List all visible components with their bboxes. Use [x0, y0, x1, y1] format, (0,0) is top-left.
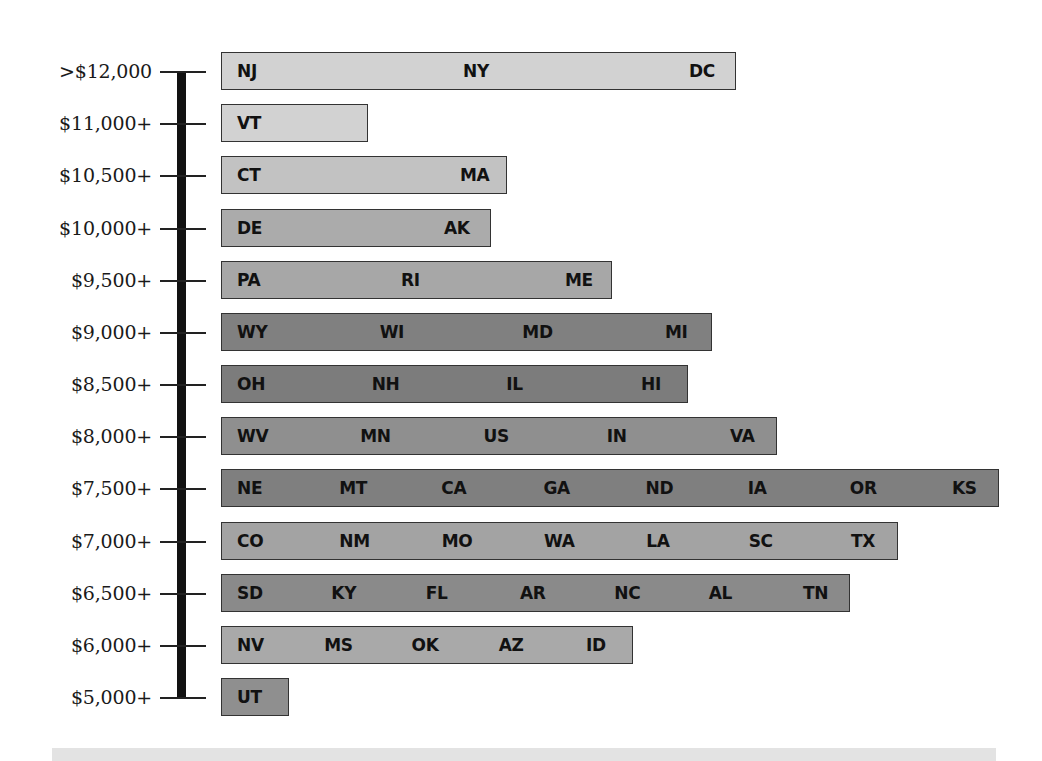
state-label: ND [646, 478, 674, 498]
state-label: PA [237, 270, 260, 290]
axis-tick [160, 541, 206, 543]
state-label: WV [237, 426, 268, 446]
state-label: FL [426, 583, 448, 603]
state-label: SC [749, 531, 773, 551]
axis-tick-label: $7,500+ [0, 477, 152, 499]
axis-tick [160, 280, 206, 282]
axis-tick [160, 175, 206, 177]
state-label: AK [444, 218, 470, 238]
axis-tick-label: $6,500+ [0, 582, 152, 604]
bracket-bar: NJNYDC [221, 52, 736, 90]
bracket-bar: SDKYFLARNCALTN [221, 574, 850, 612]
bracket-bar: DEAK [221, 209, 491, 247]
axis-tick-label: $9,000+ [0, 321, 152, 343]
state-label: MD [522, 322, 552, 342]
state-label: DC [689, 61, 715, 81]
axis-tick-label: $10,000+ [0, 217, 152, 239]
state-label: AZ [499, 635, 524, 655]
bracket-bar: WVMNUSINVA [221, 417, 777, 455]
state-label: UT [237, 687, 262, 707]
state-label: AR [520, 583, 546, 603]
state-label: NM [339, 531, 370, 551]
state-label: NE [237, 478, 262, 498]
axis-tick [160, 436, 206, 438]
state-label: DE [237, 218, 262, 238]
bracket-bar: UT [221, 678, 289, 716]
state-label: NJ [237, 61, 257, 81]
state-label: NC [614, 583, 640, 603]
state-label: MS [324, 635, 353, 655]
state-label: OK [412, 635, 439, 655]
state-label: CA [441, 478, 466, 498]
state-label: WY [237, 322, 267, 342]
axis-tick [160, 332, 206, 334]
axis-tick [160, 228, 206, 230]
state-label: IL [506, 374, 523, 394]
state-label: NH [372, 374, 400, 394]
state-label: NY [463, 61, 489, 81]
bracket-bar: NEMTCAGANDIAORKS [221, 469, 999, 507]
state-label: KY [331, 583, 356, 603]
state-label: MO [442, 531, 473, 551]
state-label: VT [237, 113, 261, 133]
bracket-bar: VT [221, 104, 368, 142]
axis-tick-label: $7,000+ [0, 530, 152, 552]
bracket-bar: NVMSOKAZID [221, 626, 633, 664]
axis-tick-label: >$12,000 [0, 60, 152, 82]
state-label: SD [237, 583, 263, 603]
state-label: AL [709, 583, 732, 603]
axis-tick-label: $6,000+ [0, 634, 152, 656]
state-label: MI [665, 322, 688, 342]
axis-tick-label: $8,000+ [0, 425, 152, 447]
state-label: NV [237, 635, 264, 655]
state-label: CT [237, 165, 260, 185]
state-label: MA [460, 165, 489, 185]
state-label: VA [730, 426, 755, 446]
state-label: IA [748, 478, 767, 498]
axis-tick-label: $5,000+ [0, 686, 152, 708]
axis-tick [160, 488, 206, 490]
axis-tick [160, 123, 206, 125]
state-label: US [484, 426, 509, 446]
state-label: LA [646, 531, 669, 551]
axis-tick-label: $9,500+ [0, 269, 152, 291]
state-label: WI [380, 322, 404, 342]
axis-tick-label: $8,500+ [0, 373, 152, 395]
state-label: IN [607, 426, 627, 446]
state-label: TX [851, 531, 875, 551]
state-label: MN [360, 426, 391, 446]
state-label: OH [237, 374, 265, 394]
footer-strip [52, 748, 996, 761]
axis-tick [160, 697, 206, 699]
axis-tick [160, 593, 206, 595]
state-label: KS [952, 478, 977, 498]
state-label: ME [565, 270, 593, 290]
state-label: MT [339, 478, 367, 498]
state-label: ID [586, 635, 606, 655]
bracket-bar: CONMMOWALASCTX [221, 522, 898, 560]
spending-bracket-chart: >$12,000NJNYDC$11,000+VT$10,500+CTMA$10,… [0, 0, 1042, 761]
axis-tick-label: $10,500+ [0, 164, 152, 186]
bracket-bar: OHNHILHI [221, 365, 688, 403]
state-label: CO [237, 531, 263, 551]
axis-tick [160, 645, 206, 647]
state-label: GA [543, 478, 570, 498]
axis-tick [160, 71, 206, 73]
bracket-bar: WYWIMDMI [221, 313, 712, 351]
state-label: HI [641, 374, 661, 394]
axis-tick [160, 384, 206, 386]
bracket-bar: PARIME [221, 261, 612, 299]
state-label: RI [401, 270, 420, 290]
state-label: WA [544, 531, 575, 551]
axis-tick-label: $11,000+ [0, 112, 152, 134]
state-label: TN [803, 583, 828, 603]
bracket-bar: CTMA [221, 156, 507, 194]
state-label: OR [850, 478, 877, 498]
